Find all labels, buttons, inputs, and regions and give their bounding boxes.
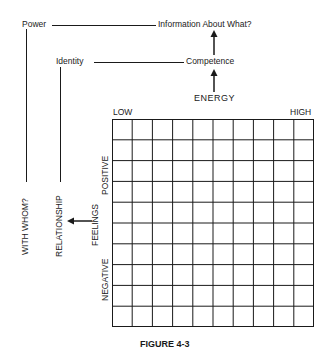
connector-identity-competence — [94, 62, 184, 63]
node-relationship: RELATIONSHIP — [55, 195, 64, 257]
axis-label-high: HIGH — [290, 108, 311, 117]
node-with-whom: WITH WHOM? — [21, 198, 30, 255]
node-competence: Competence — [186, 57, 234, 66]
node-feelings: FEELINGS — [91, 204, 100, 246]
connector-identity-relationship — [60, 67, 61, 182]
node-energy: ENERGY — [194, 94, 235, 103]
figure-caption: FIGURE 4-3 — [140, 340, 190, 349]
energy-feelings-grid — [112, 119, 314, 327]
node-identity: Identity — [56, 57, 83, 66]
axis-label-positive: POSITIVE — [101, 156, 110, 195]
connector-power-with-whom — [26, 29, 27, 182]
axis-label-low: LOW — [113, 108, 132, 117]
axis-label-negative: NEGATIVE — [101, 259, 110, 301]
grid-lines — [112, 119, 314, 327]
